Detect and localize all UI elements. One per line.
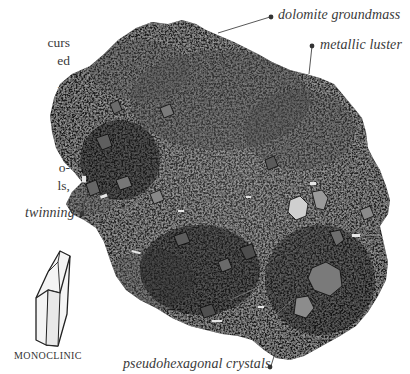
crystal-system-caption: MONOCLINIC	[14, 350, 82, 361]
monoclinic-crystal-diagram	[36, 251, 70, 346]
annotation-metallic-luster: metallic luster	[320, 37, 402, 53]
annotation-dolomite-groundmass: dolomite groundmass	[278, 7, 400, 23]
annotation-pseudohexagonal-crystals: pseudohexagonal crystals	[123, 356, 270, 372]
annotation-twinning: twinning	[25, 205, 75, 221]
rock-specimen	[50, 20, 390, 360]
mineral-specimen-photo	[0, 0, 410, 374]
